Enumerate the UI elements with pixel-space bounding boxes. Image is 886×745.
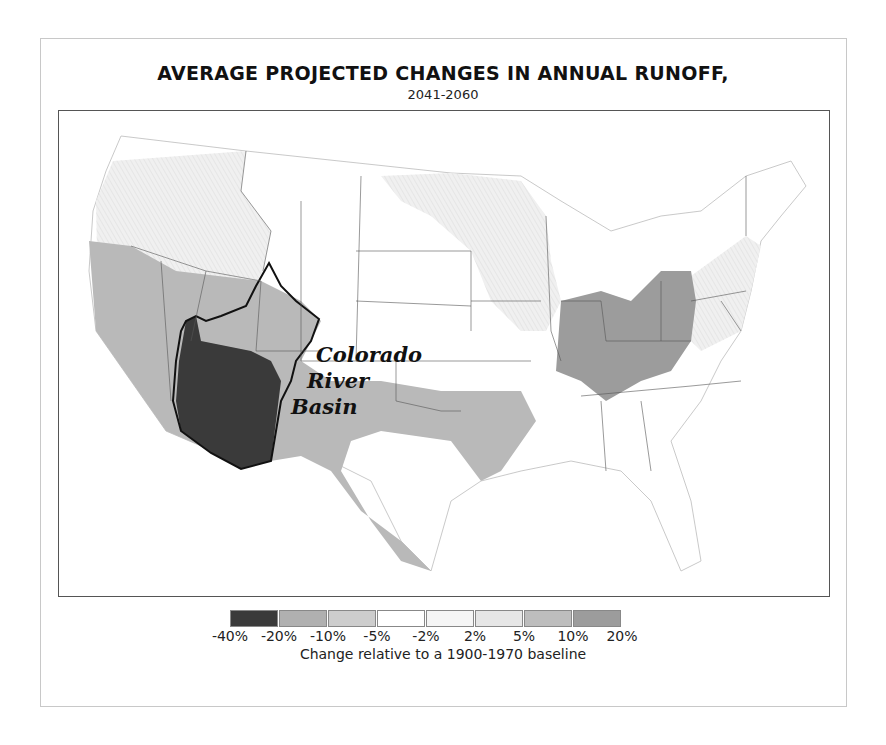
chart-subtitle: 2041-2060 <box>0 87 886 102</box>
legend-tick: -2% <box>412 628 439 644</box>
legend-tick: -40% <box>212 628 248 644</box>
legend-swatch-5 <box>426 610 474 627</box>
legend-tick: -20% <box>261 628 297 644</box>
legend-tick: -5% <box>363 628 390 644</box>
legend-swatch-7 <box>524 610 572 627</box>
legend-swatch-6 <box>475 610 523 627</box>
legend-swatch-8 <box>573 610 621 627</box>
legend-tick: -10% <box>310 628 346 644</box>
legend-swatch-4 <box>377 610 425 627</box>
legend-tick: 5% <box>513 628 535 644</box>
legend-tick: 20% <box>606 628 637 644</box>
legend-swatch-3 <box>328 610 376 627</box>
legend-swatch-1 <box>230 610 278 627</box>
basin-label-line3: Basin <box>291 395 357 419</box>
runoff-map: Colorado River Basin <box>58 110 830 597</box>
legend-swatch-2 <box>279 610 327 627</box>
basin-label-line1: Colorado <box>316 343 422 367</box>
color-legend <box>230 610 622 627</box>
legend-ticks: -40% -20% -10% -5% -2% 2% 5% 10% 20% <box>200 628 660 646</box>
basin-label-line2: River <box>307 369 369 393</box>
us-map-svg <box>59 111 830 597</box>
legend-tick: 10% <box>557 628 588 644</box>
chart-title: AVERAGE PROJECTED CHANGES IN ANNUAL RUNO… <box>0 62 886 84</box>
legend-caption: Change relative to a 1900-1970 baseline <box>0 646 886 662</box>
legend-tick: 2% <box>464 628 486 644</box>
